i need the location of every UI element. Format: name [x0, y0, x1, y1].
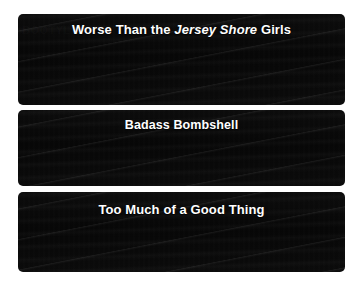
panel-headline: Too Much of a Good Thing — [18, 202, 345, 217]
headline-part-prefix: Badass Bombshell — [125, 118, 238, 132]
panel-headline: Worse Than the Jersey Shore Girls — [18, 22, 345, 37]
headline-part-prefix: Worse Than the — [72, 22, 174, 37]
content-panel-too-much-of-a-good-thing[interactable]: Too Much of a Good Thing — [18, 192, 345, 272]
panel-stack: BOOTYLA Worse Than the Jersey Shore Girl… — [18, 0, 345, 288]
headline-part-prefix: Too Much of a Good Thing — [98, 202, 264, 217]
content-panel-badass-bombshell[interactable]: Badass Bombshell — [18, 110, 345, 186]
headline-part-italic: Jersey Shore — [174, 22, 257, 37]
content-panel-worse-than-jersey-shore-girls[interactable]: BOOTYLA Worse Than the Jersey Shore Girl… — [18, 14, 345, 105]
headline-part-suffix: Girls — [257, 22, 291, 37]
panel-headline: Badass Bombshell — [18, 118, 345, 132]
